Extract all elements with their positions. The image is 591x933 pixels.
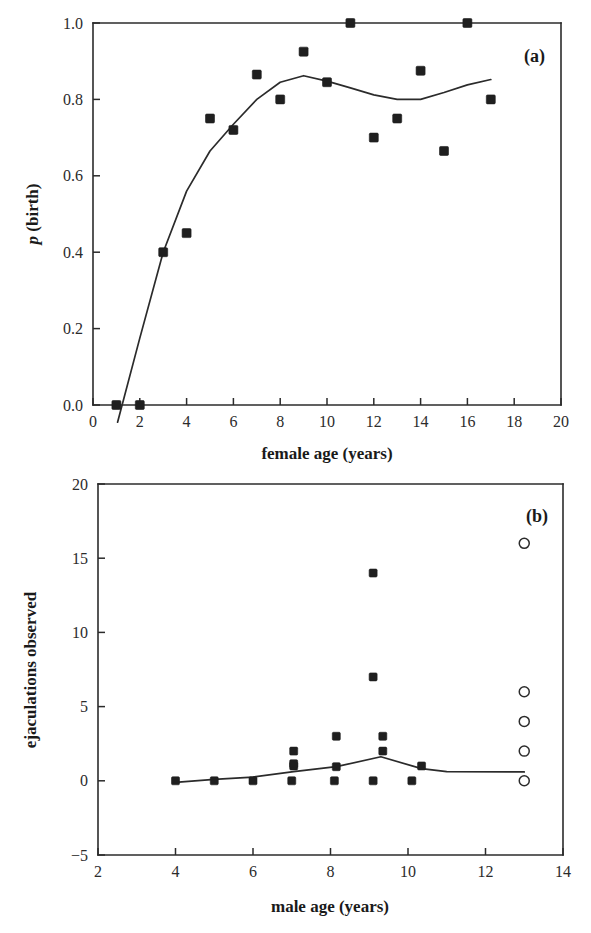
data-point-filled	[379, 732, 387, 740]
data-point-filled	[288, 777, 296, 785]
data-point-filled	[229, 125, 238, 134]
x-tick-label: 20	[553, 413, 569, 430]
data-point-filled	[182, 229, 191, 238]
x-tick-label: 2	[136, 413, 144, 430]
data-point-open	[519, 538, 529, 548]
panel-a-y-axis-title: p (birth)	[23, 184, 42, 247]
panel-b-x-axis-title: male age (years)	[271, 897, 389, 916]
y-tick-label: 1.0	[63, 15, 83, 32]
data-point-filled	[369, 673, 377, 681]
x-tick-label: 12	[478, 863, 494, 880]
y-tick-label: 0.2	[63, 320, 83, 337]
data-point-filled	[379, 747, 387, 755]
y-tick-label: 5	[80, 698, 88, 715]
x-tick-label: 0	[89, 413, 97, 430]
data-point-filled	[369, 777, 377, 785]
data-point-filled	[276, 95, 285, 104]
panel-a-fit-line	[118, 76, 491, 422]
data-point-filled	[299, 47, 308, 56]
data-point-filled	[486, 95, 495, 104]
data-point-filled	[440, 146, 449, 155]
data-point-filled	[418, 762, 426, 770]
panel-a-x-ticklabels: 02468101214161820	[89, 413, 569, 430]
data-point-filled	[135, 401, 144, 410]
panel-a-x-ticks	[93, 398, 561, 405]
panel-b-x-ticklabels: 2468101214	[94, 863, 571, 880]
y-axis-label-rest: (birth)	[23, 184, 42, 236]
panel-b-fit-line	[176, 757, 525, 783]
x-tick-label: 8	[276, 413, 284, 430]
x-tick-label: 2	[94, 863, 102, 880]
panel-a-y-ticklabels: 0.00.20.40.60.81.0	[63, 15, 83, 414]
panel-a-svg: 02468101214161820 0.00.20.40.60.81.0 fem…	[0, 0, 591, 466]
x-tick-label: 16	[459, 413, 475, 430]
x-tick-label: 4	[183, 413, 191, 430]
y-tick-label: 0.8	[63, 91, 83, 108]
x-tick-label: 14	[413, 413, 429, 430]
x-tick-label: 8	[327, 863, 335, 880]
data-point-filled	[346, 19, 355, 28]
figure-container: 02468101214161820 0.00.20.40.60.81.0 fem…	[0, 0, 591, 933]
data-point-filled	[206, 114, 215, 123]
y-tick-label: 10	[72, 624, 88, 641]
x-tick-label: 6	[229, 413, 237, 430]
y-tick-label: 0.0	[63, 397, 83, 414]
data-point-filled	[252, 70, 261, 79]
y-tick-label: 20	[72, 476, 88, 493]
data-point-open	[519, 776, 529, 786]
data-point-filled	[172, 777, 180, 785]
data-point-filled	[369, 133, 378, 142]
panel-a-data-points	[112, 19, 495, 410]
data-point-filled	[408, 777, 416, 785]
x-tick-label: 18	[506, 413, 522, 430]
panel-b-svg: 2468101214 −505101520 male age (years) e…	[0, 460, 591, 933]
x-tick-label: 12	[366, 413, 382, 430]
panel-a-tag: (a)	[524, 46, 545, 67]
y-tick-label: 0	[80, 772, 88, 789]
data-point-open	[519, 746, 529, 756]
panel-b-y-axis-title: ejaculations observed	[21, 591, 40, 748]
panel-a: 02468101214161820 0.00.20.40.60.81.0 fem…	[0, 0, 591, 466]
data-point-filled	[463, 19, 472, 28]
data-point-open	[519, 687, 529, 697]
y-tick-label: −5	[71, 847, 88, 864]
panel-b-y-ticklabels: −505101520	[71, 476, 88, 864]
data-point-filled	[323, 78, 332, 87]
data-point-filled	[393, 114, 402, 123]
data-point-filled	[290, 747, 298, 755]
y-axis-italic-p: p	[23, 236, 42, 247]
panel-b-y-ticks	[98, 484, 105, 855]
x-tick-label: 14	[555, 863, 571, 880]
y-tick-label: 0.4	[63, 244, 83, 261]
data-point-filled	[249, 777, 257, 785]
data-point-filled	[332, 763, 340, 771]
panel-b-filled-points	[172, 569, 426, 785]
panel-b-x-ticks	[98, 848, 563, 855]
panel-b: 2468101214 −505101520 male age (years) e…	[0, 460, 591, 933]
data-point-filled	[330, 777, 338, 785]
data-point-filled	[112, 401, 121, 410]
x-tick-label: 4	[172, 863, 180, 880]
data-point-filled	[416, 66, 425, 75]
data-point-filled	[332, 732, 340, 740]
panel-b-tag: (b)	[526, 506, 548, 527]
y-tick-label: 15	[72, 550, 88, 567]
x-tick-label: 10	[400, 863, 416, 880]
y-tick-label: 0.6	[63, 167, 83, 184]
data-point-filled	[159, 248, 168, 257]
panel-a-y-ticks	[93, 23, 100, 405]
data-point-filled	[290, 760, 298, 768]
x-tick-label: 6	[249, 863, 257, 880]
panel-b-open-points	[519, 538, 529, 785]
x-tick-label: 10	[319, 413, 335, 430]
data-point-filled	[210, 777, 218, 785]
data-point-open	[519, 716, 529, 726]
data-point-filled	[369, 569, 377, 577]
panel-b-axes	[98, 484, 563, 855]
